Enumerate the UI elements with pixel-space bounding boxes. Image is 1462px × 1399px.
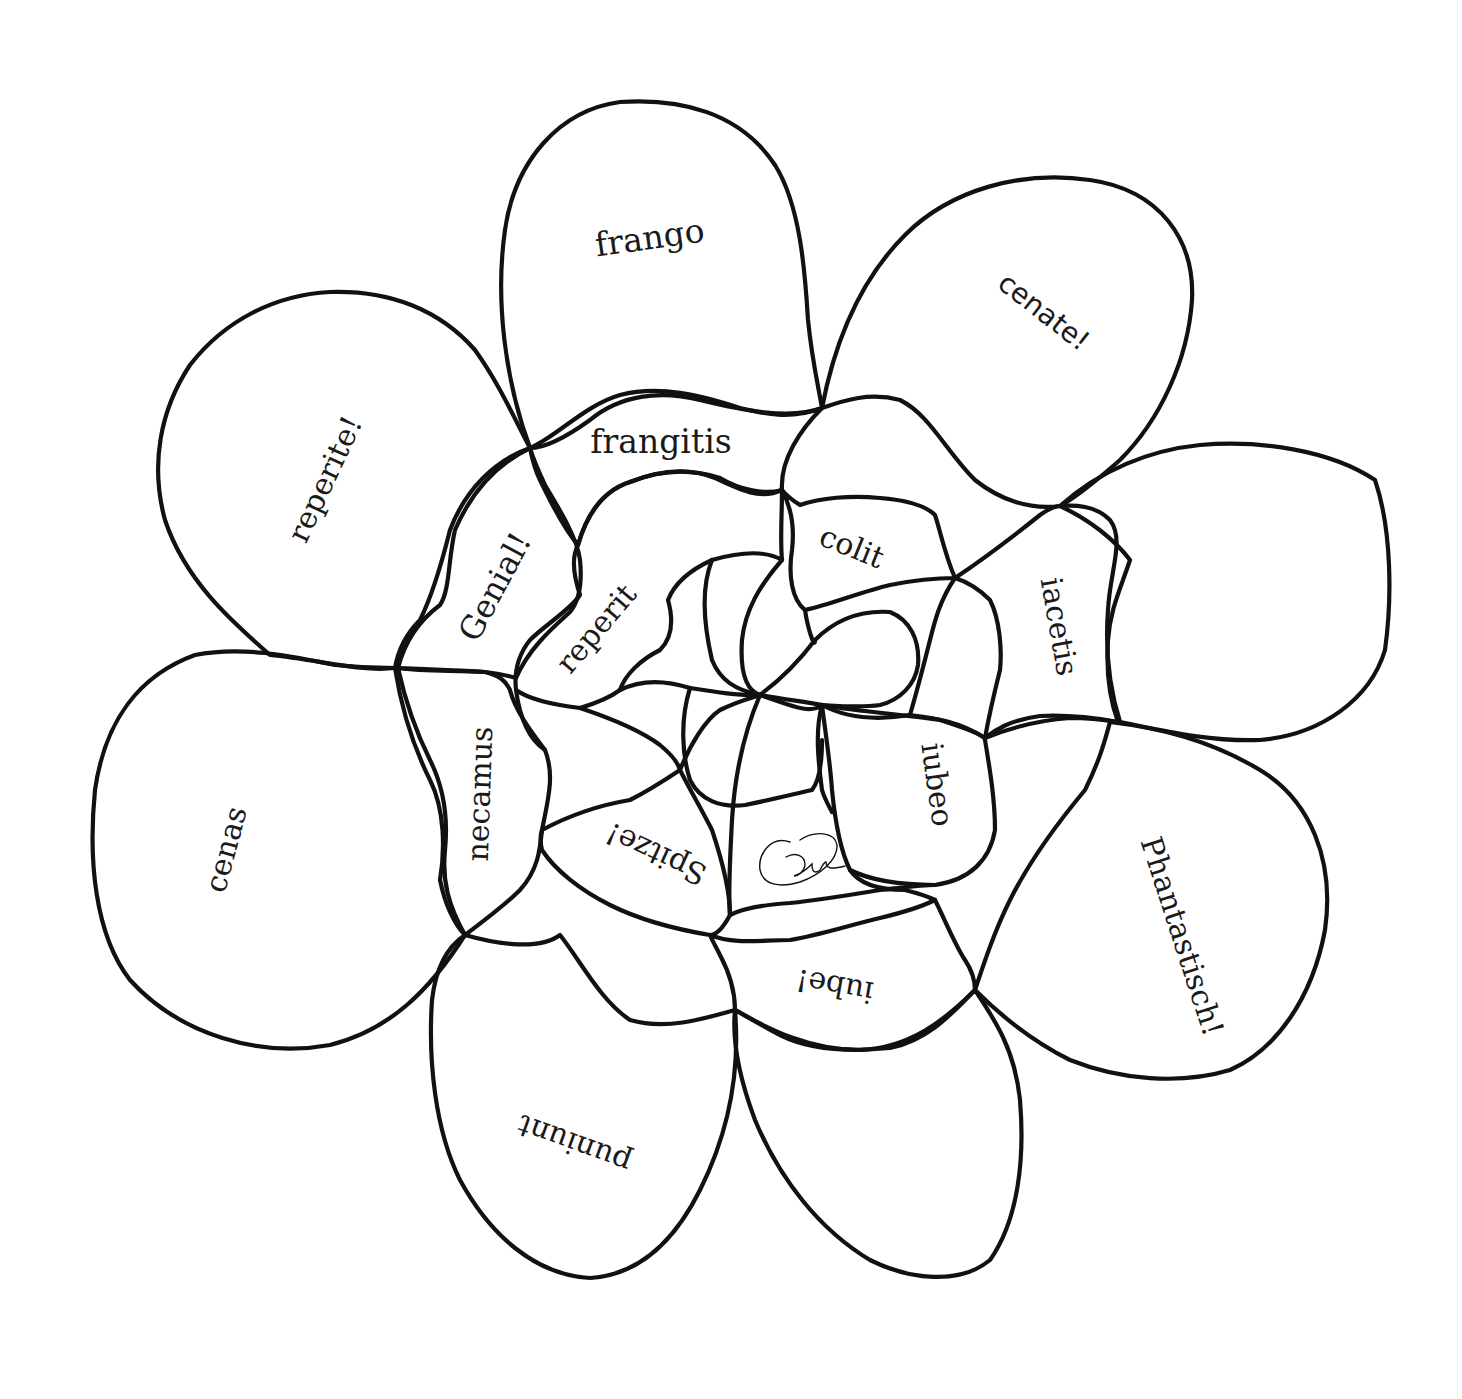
- center-loop-b: [742, 560, 919, 707]
- label-frangitis: frangitis: [590, 422, 731, 461]
- petal-outline-iubeo: [822, 705, 995, 885]
- label-reperite: reperite!: [280, 410, 369, 547]
- label-reperit: reperit: [549, 577, 643, 680]
- center-loop-d: [683, 688, 822, 806]
- label-iube: iube!: [793, 962, 876, 1010]
- label-iacetis: iacetis: [1034, 575, 1086, 679]
- label-phantastisch: Phantastisch!: [1134, 832, 1231, 1040]
- petal-outline-frangitis: [530, 391, 822, 545]
- center-loop-f: [580, 695, 760, 770]
- label-genial: Genial!: [450, 526, 539, 648]
- label-necamus: necamus: [460, 726, 500, 862]
- label-cenate: cenate!: [992, 266, 1097, 358]
- label-cenas: cenas: [197, 803, 253, 896]
- label-puniunt: puniunt: [513, 1108, 636, 1181]
- middle-petals: [398, 391, 1130, 1050]
- label-frango: frango: [593, 211, 707, 265]
- signature-glyph-icon: [760, 834, 845, 885]
- label-spitze: Spitze!: [600, 816, 712, 893]
- labels: frango cenate! Phantastisch! puniunt cen…: [197, 211, 1231, 1181]
- petal-outline-puniunt: [431, 935, 736, 1278]
- flower-diagram: frango cenate! Phantastisch! puniunt cen…: [0, 0, 1462, 1399]
- petal-outline-cenate: [822, 177, 1192, 506]
- petal-outline-frango: [501, 101, 822, 448]
- label-iubeo: iubeo: [914, 741, 960, 829]
- center-loop-k: [805, 610, 815, 643]
- label-colit: colit: [815, 518, 889, 575]
- petal-outline-phantastisch: [975, 722, 1327, 1079]
